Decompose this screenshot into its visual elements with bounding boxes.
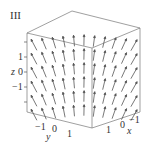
arrowhead-icon bbox=[83, 49, 85, 51]
arrowhead-icon bbox=[31, 81, 33, 83]
arrowhead-icon bbox=[94, 106, 96, 108]
arrowhead-icon bbox=[135, 110, 137, 112]
arrowhead-icon bbox=[73, 49, 75, 51]
arrowhead-icon bbox=[73, 35, 75, 37]
arrowhead-icon bbox=[125, 81, 127, 83]
arrowhead-icon bbox=[62, 106, 64, 108]
x-axis-label: x bbox=[127, 126, 131, 136]
y-tick-0: 0 bbox=[52, 124, 57, 134]
vector-arrows bbox=[31, 35, 137, 121]
arrowhead-icon bbox=[83, 77, 85, 79]
x-tick-1: 1 bbox=[106, 125, 111, 135]
z-tick-0: 0 bbox=[18, 67, 23, 77]
arrowhead-icon bbox=[135, 68, 137, 70]
arrowhead-icon bbox=[83, 63, 85, 65]
arrowhead-icon bbox=[114, 80, 116, 82]
arrowhead-icon bbox=[52, 93, 54, 95]
z-tick-neg1: −1 bbox=[12, 82, 23, 92]
arrowhead-icon bbox=[73, 77, 75, 79]
arrowhead-icon bbox=[31, 39, 33, 41]
arrowhead-icon bbox=[31, 53, 33, 55]
arrowhead-icon bbox=[94, 50, 96, 52]
bounding-box bbox=[27, 11, 140, 128]
z-axis-label: z bbox=[11, 67, 15, 77]
arrowhead-icon bbox=[83, 35, 85, 37]
arrowhead-icon bbox=[104, 107, 106, 109]
arrowhead-icon bbox=[104, 51, 106, 53]
arrowhead-icon bbox=[114, 38, 116, 40]
arrowhead-icon bbox=[31, 109, 33, 111]
arrowhead-icon bbox=[42, 38, 44, 40]
arrowhead-icon bbox=[94, 36, 96, 38]
arrowhead-icon bbox=[62, 50, 64, 52]
arrowhead-icon bbox=[125, 95, 127, 97]
arrowhead-icon bbox=[31, 95, 33, 97]
arrowhead-icon bbox=[135, 82, 137, 84]
y-tick-1: 1 bbox=[67, 129, 72, 139]
z-axis-ticks bbox=[24, 42, 27, 102]
arrowhead-icon bbox=[114, 108, 116, 110]
arrowhead-icon bbox=[62, 64, 64, 66]
arrowhead-icon bbox=[62, 78, 64, 80]
arrowhead-icon bbox=[52, 37, 54, 39]
arrowhead-icon bbox=[94, 64, 96, 66]
panel-label: III bbox=[10, 9, 21, 21]
y-axis-label: y bbox=[46, 132, 50, 142]
arrowhead-icon bbox=[135, 96, 137, 98]
arrowhead-icon bbox=[125, 67, 127, 69]
arrowhead-icon bbox=[125, 109, 127, 111]
arrowhead-icon bbox=[42, 52, 44, 54]
arrowhead-icon bbox=[52, 51, 54, 53]
arrowhead-icon bbox=[104, 79, 106, 81]
arrowhead-icon bbox=[94, 92, 96, 94]
z-tick-1: 1 bbox=[18, 52, 23, 62]
arrowhead-icon bbox=[52, 65, 54, 67]
arrowhead-icon bbox=[125, 53, 127, 55]
arrowhead-icon bbox=[62, 36, 64, 38]
x-tick-neg1: −1 bbox=[129, 115, 140, 125]
arrowhead-icon bbox=[104, 37, 106, 39]
arrowhead-icon bbox=[94, 78, 96, 80]
arrowhead-icon bbox=[135, 40, 137, 42]
arrowhead-icon bbox=[114, 52, 116, 54]
arrowhead-icon bbox=[83, 91, 85, 93]
arrowhead-icon bbox=[73, 63, 75, 65]
arrowhead-icon bbox=[73, 105, 75, 107]
arrowhead-icon bbox=[31, 67, 33, 69]
arrowhead-icon bbox=[83, 105, 85, 107]
arrowhead-icon bbox=[62, 92, 64, 94]
arrowhead-icon bbox=[114, 66, 116, 68]
arrowhead-icon bbox=[42, 80, 44, 82]
arrowhead-icon bbox=[125, 39, 127, 41]
arrowhead-icon bbox=[52, 79, 54, 81]
arrowhead-icon bbox=[114, 94, 116, 96]
arrowhead-icon bbox=[104, 65, 106, 67]
arrowhead-icon bbox=[135, 54, 137, 56]
arrowhead-icon bbox=[42, 94, 44, 96]
arrowhead-icon bbox=[104, 93, 106, 95]
y-tick-neg1: −1 bbox=[35, 122, 46, 132]
arrowhead-icon bbox=[73, 91, 75, 93]
arrowhead-icon bbox=[42, 108, 44, 110]
arrowhead-icon bbox=[52, 107, 54, 109]
x-tick-0: 0 bbox=[120, 120, 125, 130]
arrowhead-icon bbox=[42, 66, 44, 68]
